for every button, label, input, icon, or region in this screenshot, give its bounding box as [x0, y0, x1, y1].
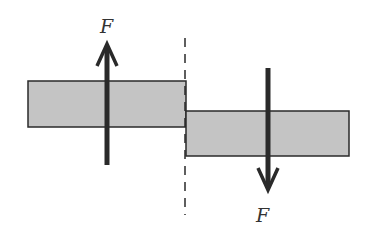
- shear-diagram: F F: [0, 0, 367, 245]
- force-label-up: F: [99, 15, 114, 37]
- force-label-down: F: [255, 204, 270, 226]
